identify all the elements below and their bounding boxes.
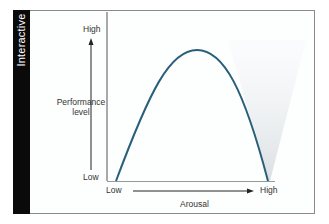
y-title-line1: Performance bbox=[56, 97, 106, 107]
x-arrowhead-icon bbox=[247, 189, 254, 194]
x-label-low: Low bbox=[106, 185, 122, 195]
x-axis-title: Arousal bbox=[180, 199, 209, 209]
y-label-high: High bbox=[83, 24, 100, 34]
chart-plot bbox=[0, 0, 329, 224]
y-label-low: Low bbox=[83, 172, 99, 182]
y-axis-title: Performance level bbox=[56, 97, 106, 117]
y-arrowhead-icon bbox=[89, 38, 94, 45]
x-label-high: High bbox=[260, 185, 277, 195]
y-title-line2: level bbox=[56, 107, 106, 117]
shaded-wedge bbox=[228, 40, 306, 181]
